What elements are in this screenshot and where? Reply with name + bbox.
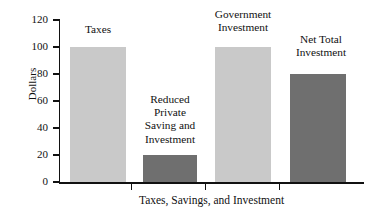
x-axis-tick [205, 183, 206, 190]
bar-caption: Net Total Investment [282, 33, 360, 59]
bar [70, 47, 126, 182]
bar-chart: Dollars 120100806040200 TaxesReduced Pri… [0, 0, 370, 216]
x-axis-tick [131, 183, 132, 190]
y-axis-tick [53, 73, 60, 74]
y-axis-tick [53, 127, 60, 128]
bar [290, 74, 346, 182]
y-axis-tick-label: 80 [14, 68, 48, 79]
y-axis-tick [53, 100, 60, 101]
bar [143, 155, 197, 182]
y-axis-tick-label: 100 [14, 41, 48, 52]
y-axis-tick-label: 0 [14, 176, 48, 187]
x-axis-title: Taxes, Savings, and Investment [59, 194, 364, 207]
bar-caption: Government Investment [200, 8, 286, 34]
y-axis-tick-label: 120 [14, 14, 48, 25]
x-axis-tick [279, 183, 280, 190]
bar [215, 47, 271, 182]
y-axis-tick [53, 19, 60, 20]
y-axis-tick-label: 60 [14, 95, 48, 106]
bar-caption: Taxes [62, 23, 134, 36]
y-axis-tick [53, 154, 60, 155]
y-axis-tick [53, 46, 60, 47]
bar-caption: Reduced Private Saving and Investment [134, 93, 206, 146]
x-axis-line [59, 182, 364, 184]
y-axis-tick-label: 40 [14, 122, 48, 133]
y-axis-tick-label: 20 [14, 149, 48, 160]
